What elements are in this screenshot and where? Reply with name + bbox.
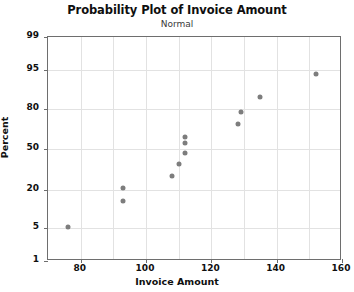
data-point <box>183 141 188 146</box>
x-axis-title: Invoice Amount <box>0 276 354 287</box>
data-point <box>183 150 188 155</box>
data-point <box>258 95 263 100</box>
data-point <box>65 225 70 230</box>
x-tick-label: 160 <box>332 263 351 273</box>
gridline-horizontal <box>48 228 340 229</box>
data-point <box>238 109 243 114</box>
x-tick-label: 80 <box>73 263 86 273</box>
y-tick-mark <box>44 109 48 110</box>
data-point <box>176 161 181 166</box>
plot-area <box>47 36 341 260</box>
data-point <box>313 72 318 77</box>
y-tick-label: 5 <box>7 221 39 231</box>
chart-title: Probability Plot of Invoice Amount <box>0 3 354 17</box>
gridline-horizontal <box>48 70 340 71</box>
y-tick-label: 99 <box>7 30 39 40</box>
data-point <box>235 121 240 126</box>
gridline-horizontal <box>48 149 340 150</box>
probability-plot: Probability Plot of Invoice Amount Norma… <box>0 0 354 292</box>
data-point <box>170 173 175 178</box>
y-axis-labels: 152050809599 <box>0 36 47 260</box>
y-tick-label: 95 <box>7 63 39 73</box>
y-tick-mark <box>44 228 48 229</box>
y-tick-mark <box>44 149 48 150</box>
x-tick-label: 120 <box>201 263 220 273</box>
y-tick-mark <box>44 70 48 71</box>
y-tick-mark <box>44 190 48 191</box>
gridline-horizontal <box>48 190 340 191</box>
data-point <box>121 199 126 204</box>
data-point <box>121 185 126 190</box>
y-tick-label: 20 <box>7 183 39 193</box>
gridline-horizontal <box>48 109 340 110</box>
x-axis-labels: 80100120140160 <box>47 261 341 277</box>
data-point <box>183 134 188 139</box>
y-tick-mark <box>44 37 48 38</box>
y-tick-label: 80 <box>7 102 39 112</box>
chart-subtitle: Normal <box>0 19 354 29</box>
x-tick-label: 100 <box>136 263 155 273</box>
y-tick-label: 50 <box>7 142 39 152</box>
x-tick-label: 140 <box>266 263 285 273</box>
y-tick-label: 1 <box>7 254 39 264</box>
